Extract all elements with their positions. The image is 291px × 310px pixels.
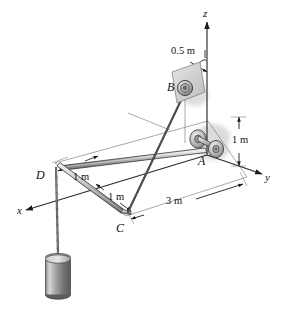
dim-label-1m-height: 1 m <box>232 135 248 146</box>
point-label-c: C <box>116 222 124 234</box>
dim-label-1m-second: 1 m <box>108 192 124 203</box>
x-axis-label: x <box>17 205 22 216</box>
point-label-b: B <box>167 81 174 93</box>
point-label-a: A <box>198 155 205 167</box>
cylinder-weight <box>46 253 71 299</box>
y-axis-label: y <box>265 172 270 183</box>
dim-label-3m: 3 m <box>166 196 182 207</box>
dim-label-0-5m: 0.5 m <box>171 46 195 57</box>
point-label-d: D <box>36 169 45 181</box>
dim-label-1m-first: 1 m <box>73 172 89 183</box>
statics-figure: z y x B A C D 0.5 m 1 m 1 m 1 m 3 m <box>0 0 291 310</box>
z-axis-label: z <box>203 8 207 19</box>
cord-d <box>55 167 60 254</box>
rod-ad <box>59 148 207 170</box>
figure-canvas <box>0 0 291 310</box>
